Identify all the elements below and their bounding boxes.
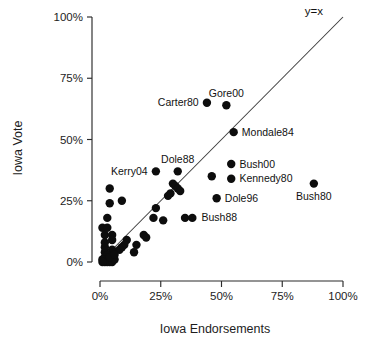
data-point (106, 184, 114, 192)
data-point (101, 238, 109, 246)
data-point-label-carter80: Carter80 (158, 96, 199, 108)
data-point-labeled (227, 160, 235, 168)
data-point-label-bush88: Bush88 (202, 211, 238, 223)
x-axis-tick-label: 0% (92, 290, 109, 302)
y-axis-tick-label: 50% (60, 134, 83, 146)
data-point-labeled (188, 214, 196, 222)
plot-background (0, 0, 368, 344)
y-axis-tick-label: 25% (60, 195, 83, 207)
data-point (130, 248, 138, 256)
data-point (103, 224, 111, 232)
data-point (108, 236, 116, 244)
data-point-label-bush00: Bush00 (239, 158, 275, 170)
data-point-labeled (203, 99, 211, 107)
data-point-labeled (310, 179, 318, 187)
y-axis-tick-label: 100% (54, 11, 83, 23)
x-axis-tick-label: 100% (328, 290, 357, 302)
data-point (101, 231, 109, 239)
x-axis-title: Iowa Endorsements (160, 322, 270, 336)
data-point-label-kerry04: Kerry04 (111, 165, 148, 177)
identity-line-label: y=x (305, 5, 323, 17)
data-point (164, 192, 172, 200)
x-axis-tick-label: 25% (149, 290, 172, 302)
x-axis-tick-label: 50% (210, 290, 233, 302)
chart-annotations: y=x (305, 5, 323, 17)
data-point-label-bush80: Bush80 (296, 190, 332, 202)
data-point-labeled (229, 128, 237, 136)
plot-canvas: 0%25%50%75%100% 0%25%50%75%100% Carter80… (0, 0, 368, 344)
data-point-label-gore00: Gore00 (209, 87, 244, 99)
data-point-label-dole88: Dole88 (161, 153, 194, 165)
data-point-label-mondale84: Mondale84 (242, 126, 294, 138)
data-point-labeled (174, 167, 182, 175)
data-point (118, 197, 126, 205)
scatter-plot-figure: 0%25%50%75%100% 0%25%50%75%100% Carter80… (0, 0, 368, 344)
data-point-labeled (152, 167, 160, 175)
data-point-labeled (227, 175, 235, 183)
y-axis-tick-label: 75% (60, 72, 83, 84)
data-point (98, 258, 106, 266)
data-point-labeled (181, 214, 189, 222)
data-point (149, 214, 157, 222)
data-point (152, 204, 160, 212)
data-point-label-kennedy80: Kennedy80 (239, 172, 292, 184)
data-point-labeled (222, 101, 230, 109)
y-axis-tick-label: 0% (66, 256, 83, 268)
data-point (103, 214, 111, 222)
data-point-label-dole96: Dole96 (225, 192, 258, 204)
data-point (132, 241, 140, 249)
data-point (110, 250, 118, 258)
data-point (208, 172, 216, 180)
data-point (176, 187, 184, 195)
x-axis-tick-label: 75% (271, 290, 294, 302)
data-point (106, 199, 114, 207)
data-point-labeled (212, 194, 220, 202)
y-axis-title: Iowa Vote (11, 121, 25, 176)
data-point (159, 216, 167, 224)
data-point (142, 233, 150, 241)
